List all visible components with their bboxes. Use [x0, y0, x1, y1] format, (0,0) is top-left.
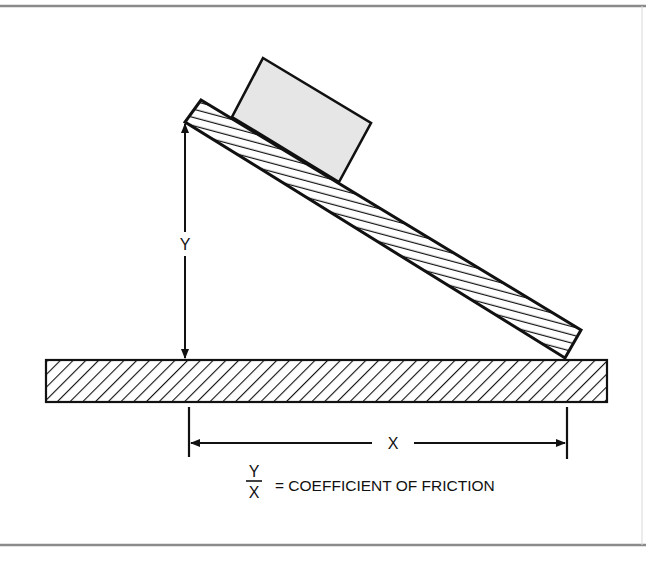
fraction-denominator: X: [249, 484, 260, 501]
friction-diagram: Y X Y X = COEFFICIENT OF FRICTION: [0, 0, 646, 563]
run-label: X: [388, 435, 399, 452]
rise-label: Y: [180, 236, 191, 253]
rise-dimension: Y: [180, 124, 191, 358]
friction-equation: Y X = COEFFICIENT OF FRICTION: [246, 463, 495, 501]
base-slab: [46, 360, 607, 402]
equation-text: = COEFFICIENT OF FRICTION: [275, 477, 495, 494]
ramp: [185, 100, 581, 358]
frame: [0, 6, 646, 545]
fraction-numerator: Y: [249, 463, 260, 480]
run-dimension: X: [189, 407, 567, 459]
